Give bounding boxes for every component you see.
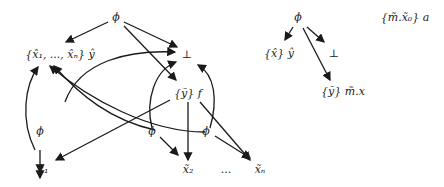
edge-phi1-to-set [26, 67, 38, 150]
node-phi-1: ϕ [36, 126, 44, 137]
edge-phi2-to-x2 [160, 137, 178, 155]
edge-phi-to-set [66, 22, 108, 42]
edge-phi2-to-bottom [150, 62, 176, 128]
node-phi-top: ϕ [112, 12, 120, 23]
node-set-y-f: {ỹ} f [174, 88, 202, 99]
node-x2: x̃₂ [183, 164, 194, 175]
node-r-set-mx0-a: {m̃.x̃₀} a [381, 12, 430, 23]
node-dots: ... [221, 164, 232, 175]
node-set-xhat: {x̂₁, ..., x̂ₙ} ŷ [25, 49, 94, 60]
node-xn: x̃ₙ [255, 164, 266, 175]
node-phi-3: ϕ [202, 126, 210, 137]
node-r-set-y-mx: {ỹ} m̃.x [321, 86, 365, 97]
node-phi-2: ϕ [148, 126, 156, 137]
edges-layer [0, 0, 444, 187]
node-r-set-xhat-y: {x̂} ŷ [264, 48, 294, 59]
node-r-bottom: ⊥ [329, 48, 339, 59]
node-r-phi-top: ϕ [294, 12, 302, 23]
node-x1: x̃₁ [38, 164, 49, 175]
node-bottom: ⊥ [182, 49, 192, 60]
edge-r-phi-to-set [285, 27, 293, 40]
edge-phi2-to-set [54, 66, 155, 130]
diagram-canvas: ϕ {x̂₁, ..., x̂ₙ} ŷ ⊥ {ỹ} f ϕ ϕ ϕ x̃₁ x̃… [0, 0, 444, 187]
